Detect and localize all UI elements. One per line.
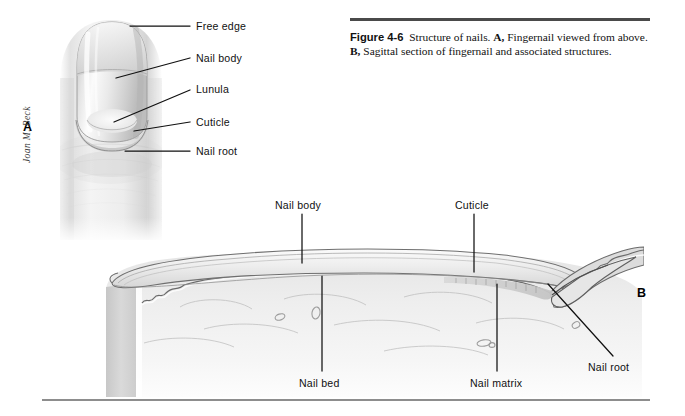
caption-part-a-letter: A, <box>493 31 504 43</box>
label-cuticle-b: Cuticle <box>455 199 489 211</box>
fingernail-top-view-illustration <box>36 8 216 243</box>
artist-signature: Joan M. Beck <box>22 106 32 163</box>
caption-part-b-letter: B, <box>350 45 360 57</box>
caption-part-b-text: Sagittal section of fingernail and assoc… <box>363 45 611 57</box>
caption-figure-number: Figure 4-6 <box>350 31 403 43</box>
label-nail-body-a: Nail body <box>196 52 242 64</box>
caption-title: Structure of nails. <box>409 31 490 43</box>
label-nail-bed: Nail bed <box>299 377 339 389</box>
label-cuticle-a: Cuticle <box>196 116 230 128</box>
nail-root-region <box>72 151 152 177</box>
nail-plate <box>77 22 147 142</box>
panel-letter-b: B <box>637 286 646 300</box>
caption-part-a-text: Fingernail viewed from above. <box>507 31 647 43</box>
caption-top-rule <box>350 18 650 21</box>
figure-canvas: Figure 4-6 Structure of nails. A, Finger… <box>0 0 685 416</box>
label-free-edge: Free edge <box>196 20 246 32</box>
label-nail-root-a: Nail root <box>196 145 237 157</box>
label-lunula: Lunula <box>196 83 229 95</box>
figure-caption: Figure 4-6 Structure of nails. A, Finger… <box>350 30 652 59</box>
nail-sagittal-section-illustration <box>84 225 644 397</box>
figure-bottom-rule <box>42 399 650 401</box>
label-nail-root-b: Nail root <box>588 361 629 373</box>
label-nail-matrix: Nail matrix <box>470 377 522 389</box>
label-nail-body-b: Nail body <box>275 199 321 211</box>
